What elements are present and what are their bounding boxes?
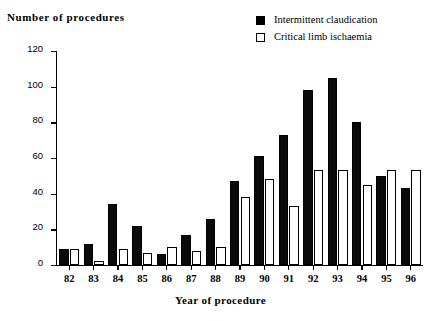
x-axis-tick: [69, 265, 70, 270]
x-axis-tick-label: 88: [210, 274, 221, 285]
x-axis-tick: [191, 265, 192, 270]
bar-84-critical-limb-ischaemia: [119, 249, 129, 265]
bar-89-intermittent-claudication: [230, 181, 240, 265]
chart-legend: Intermittent claudication Critical limb …: [256, 12, 441, 46]
bar-93-critical-limb-ischaemia: [338, 170, 348, 265]
hollow-square-icon: [256, 33, 265, 42]
x-axis-tick-label: 89: [235, 274, 246, 285]
x-axis-tick: [239, 265, 240, 270]
legend-item-critical-limb-ischaemia: Critical limb ischaemia: [256, 29, 441, 46]
legend-item-label: Critical limb ischaemia: [274, 32, 372, 43]
x-axis-tick-label: 87: [186, 274, 197, 285]
bar-90-critical-limb-ischaemia: [265, 179, 275, 265]
bar-94-intermittent-claudication: [352, 122, 362, 265]
bar-87-intermittent-claudication: [181, 235, 191, 265]
y-axis-tick-label: 100: [27, 80, 43, 90]
x-axis-tick-label: 85: [137, 274, 148, 285]
x-axis-tick: [215, 265, 216, 270]
y-axis-tick: 120: [51, 51, 57, 52]
x-axis-tick-label: 90: [259, 274, 270, 285]
y-axis-tick: 60: [51, 158, 57, 159]
x-axis-tick-label: 82: [64, 274, 75, 285]
x-axis-tick: [410, 265, 411, 270]
x-axis-tick: [264, 265, 265, 270]
x-axis-tick-label: 83: [88, 274, 99, 285]
x-axis-tick: [386, 265, 387, 270]
legend-item-label: Intermittent claudication: [274, 15, 378, 26]
x-axis-tick: [337, 265, 338, 270]
legend-item-intermittent-claudication: Intermittent claudication: [256, 12, 441, 29]
bar-92-critical-limb-ischaemia: [314, 170, 324, 265]
x-axis-tick: [142, 265, 143, 270]
bar-94-critical-limb-ischaemia: [363, 185, 373, 265]
y-axis-tick-label: 0: [38, 258, 43, 268]
bar-88-critical-limb-ischaemia: [216, 247, 226, 265]
bar-96-critical-limb-ischaemia: [411, 170, 421, 265]
x-axis-tick: [313, 265, 314, 270]
bar-87-critical-limb-ischaemia: [192, 251, 202, 265]
bar-85-intermittent-claudication: [132, 226, 142, 265]
bar-90-intermittent-claudication: [254, 156, 264, 265]
y-axis-tick-label: 80: [32, 115, 43, 125]
y-axis-tick-label: 120: [27, 44, 43, 54]
y-axis-tick-label: 20: [32, 222, 43, 232]
x-axis-tick-label: 93: [332, 274, 343, 285]
x-axis-tick: [166, 265, 167, 270]
bar-82-intermittent-claudication: [59, 249, 69, 265]
bar-84-intermittent-claudication: [108, 204, 118, 265]
x-axis-tick: [361, 265, 362, 270]
x-axis-tick: [93, 265, 94, 270]
y-axis-tick: 40: [51, 194, 57, 195]
plot-area: 020406080100120 828384858687888990919293…: [57, 51, 423, 265]
bar-83-critical-limb-ischaemia: [94, 261, 104, 265]
x-axis-tick-label: 92: [308, 274, 319, 285]
bar-96-intermittent-claudication: [401, 188, 411, 265]
y-axis-tick: 80: [51, 122, 57, 123]
y-axis-title: Number of procedures: [7, 11, 125, 23]
bar-88-intermittent-claudication: [206, 219, 216, 265]
solid-square-icon: [256, 16, 265, 25]
bar-83-intermittent-claudication: [84, 244, 94, 265]
bar-chart: Number of procedures Intermittent claudi…: [0, 0, 441, 321]
bar-86-intermittent-claudication: [157, 254, 167, 265]
y-axis-tick: 0: [51, 265, 57, 266]
bar-86-critical-limb-ischaemia: [167, 247, 177, 265]
x-axis-tick-label: 84: [113, 274, 124, 285]
bar-89-critical-limb-ischaemia: [241, 197, 251, 265]
bar-95-intermittent-claudication: [376, 176, 386, 265]
y-axis-tick: 20: [51, 229, 57, 230]
y-axis-tick-label: 60: [32, 151, 43, 161]
y-axis-tick-label: 40: [32, 187, 43, 197]
bar-93-intermittent-claudication: [328, 78, 338, 265]
x-axis-title: Year of procedure: [0, 294, 441, 306]
x-axis-tick: [117, 265, 118, 270]
bar-82-critical-limb-ischaemia: [70, 249, 80, 265]
bar-91-critical-limb-ischaemia: [289, 206, 299, 265]
x-axis-tick-label: 96: [406, 274, 417, 285]
bar-95-critical-limb-ischaemia: [387, 170, 397, 265]
bar-92-intermittent-claudication: [303, 90, 313, 265]
x-axis-tick-label: 91: [284, 274, 295, 285]
x-axis-tick-label: 86: [162, 274, 173, 285]
x-axis-tick: [288, 265, 289, 270]
bar-91-intermittent-claudication: [279, 135, 289, 265]
x-axis-tick-label: 94: [357, 274, 368, 285]
bar-85-critical-limb-ischaemia: [143, 253, 153, 265]
y-axis-tick: 100: [51, 87, 57, 88]
x-axis-tick-label: 95: [381, 274, 392, 285]
